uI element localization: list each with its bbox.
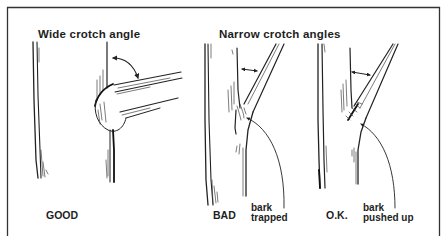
double-headed-arrow-icon [113, 58, 138, 78]
trunk-good-left [33, 42, 48, 178]
trunk-ok-left [318, 44, 327, 188]
double-headed-arrow-icon [242, 69, 257, 71]
heading-narrow-crotch-angles: Narrow crotch angles [219, 28, 341, 40]
note-bad-line2: trapped [251, 212, 288, 223]
heading-wide-crotch-angle: Wide crotch angle [38, 28, 140, 40]
trunk-bad-left [205, 44, 218, 205]
double-headed-arrow-icon [352, 72, 370, 75]
caption-bad: BAD [213, 209, 236, 221]
caption-good: GOOD [46, 209, 79, 221]
tree-ok-narrow-crotch [341, 44, 398, 208]
caption-ok: O.K. [326, 209, 348, 221]
diagram-canvas: Wide crotch angle [0, 0, 446, 236]
pointer-arrow-icon [361, 124, 395, 208]
crotch-angle-diagram: Wide crotch angle [0, 0, 446, 236]
tree-bad-narrow-crotch [228, 44, 284, 208]
pointer-arrow-icon [247, 118, 284, 208]
tree-good-wide-crotch [95, 42, 182, 182]
note-ok-line2: pushed up [363, 212, 414, 223]
